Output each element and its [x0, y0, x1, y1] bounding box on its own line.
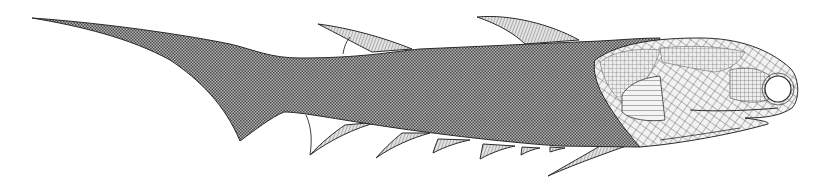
eye: [762, 73, 794, 105]
second-dorsal-spine: [477, 16, 579, 44]
fish-illustration: [0, 0, 833, 194]
first-dorsal-spine: [318, 24, 412, 54]
